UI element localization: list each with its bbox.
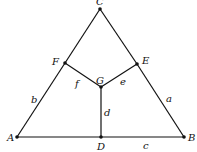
vertex-e-dot (135, 62, 139, 66)
edge-ec (100, 9, 137, 64)
vertex-f-dot (63, 61, 67, 65)
edge-be (137, 64, 184, 137)
edge-label-a: a (166, 93, 172, 104)
vertex-label-e: E (141, 55, 150, 66)
vertex-c-dot (98, 7, 102, 11)
edge-cf (65, 9, 100, 63)
vertex-label-c: C (96, 0, 104, 7)
edge-label-d: d (104, 107, 110, 118)
edge-fa (17, 63, 65, 137)
vertex-label-g: G (96, 75, 104, 86)
vertex-label-a: A (6, 132, 14, 143)
vertex-a-dot (15, 135, 19, 139)
vertex-label-d: D (96, 141, 105, 152)
vertex-label-b: B (187, 132, 195, 143)
edge-label-b: b (31, 94, 37, 105)
edge-ge (101, 64, 137, 87)
triangle-graph-diagram: cabfed ABCDEFG (0, 0, 197, 152)
vertex-label-f: F (51, 56, 60, 67)
vertex-b-dot (182, 135, 186, 139)
edge-label-f: f (74, 78, 81, 89)
edge-label-c: c (143, 140, 149, 151)
vertex-d-dot (99, 135, 103, 139)
edge-label-e: e (120, 76, 126, 87)
edges (17, 9, 184, 137)
